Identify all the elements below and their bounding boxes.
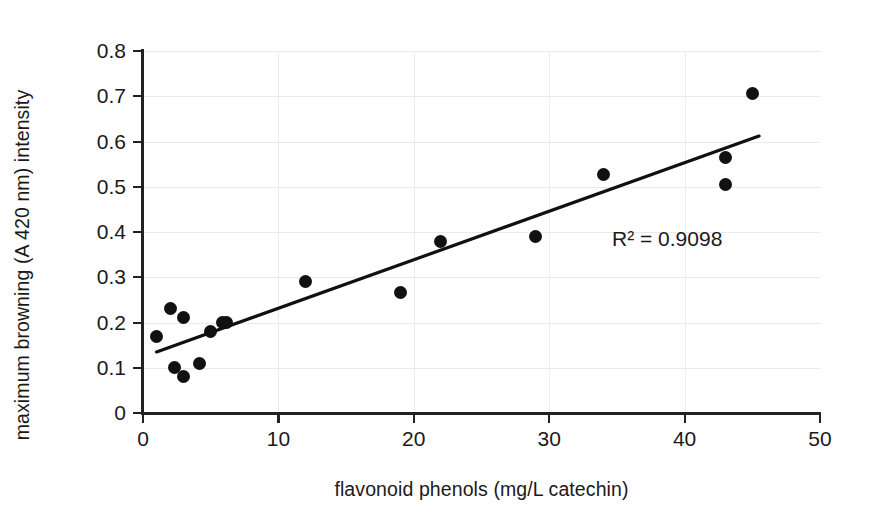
- data-point: [529, 230, 542, 243]
- trendline: [0, 0, 873, 530]
- data-point: [150, 330, 163, 343]
- x-axis-title: flavonoid phenols (mg/L catechin): [143, 478, 820, 501]
- data-point: [719, 151, 732, 164]
- data-point: [719, 178, 732, 191]
- data-point: [597, 168, 610, 181]
- data-point: [164, 302, 177, 315]
- data-point: [394, 286, 407, 299]
- scatter-chart-figure: maximum browning (A 420 nm) intensity 00…: [0, 0, 873, 530]
- x-axis-title-text: flavonoid phenols (mg/L catechin): [334, 478, 628, 500]
- r-squared-annotation: R² = 0.9098: [612, 228, 722, 249]
